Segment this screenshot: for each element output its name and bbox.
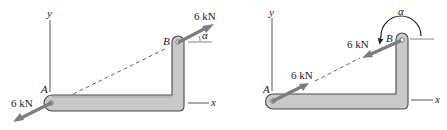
left-y-axis-label: y xyxy=(46,7,52,19)
right-alpha-label: α xyxy=(398,5,404,17)
left-panel: y A B 6 kN α 6 kN x xyxy=(11,7,216,122)
left-point-a-label: A xyxy=(40,83,48,95)
right-point-a-label: A xyxy=(262,83,270,95)
right-panel: y A B 6 kN 6 kN α x xyxy=(262,5,440,109)
right-point-b-label: B xyxy=(386,32,393,44)
left-force-b-arrow xyxy=(179,24,214,42)
right-force-a-label: 6 kN xyxy=(291,69,313,81)
right-line-ab-dashed xyxy=(315,58,360,81)
right-l-member xyxy=(266,33,409,109)
right-force-b-label: 6 kN xyxy=(347,38,369,50)
left-alpha-label: α xyxy=(202,29,208,41)
left-alpha-arc xyxy=(199,36,200,41)
left-force-a-label: 6 kN xyxy=(11,97,33,109)
two-force-member-diagram: y A B 6 kN α 6 kN x y xyxy=(0,0,447,130)
left-line-ab-dashed xyxy=(67,48,167,97)
right-y-axis-label: y xyxy=(268,6,274,18)
right-x-axis-label: x xyxy=(434,93,440,105)
left-force-b-label: 6 kN xyxy=(194,10,216,22)
left-x-axis-label: x xyxy=(210,96,216,108)
left-point-b-label: B xyxy=(163,35,170,47)
